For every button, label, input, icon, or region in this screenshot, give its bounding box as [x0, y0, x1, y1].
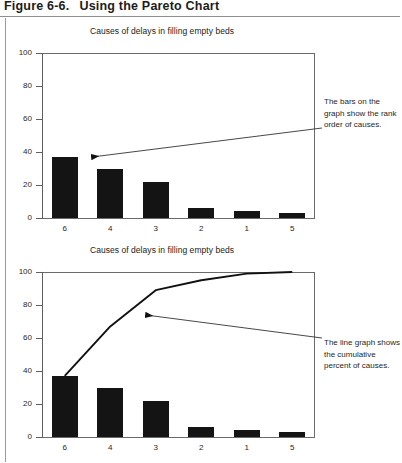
arrow-to-bars	[92, 128, 322, 157]
arrow-to-line	[146, 315, 322, 338]
